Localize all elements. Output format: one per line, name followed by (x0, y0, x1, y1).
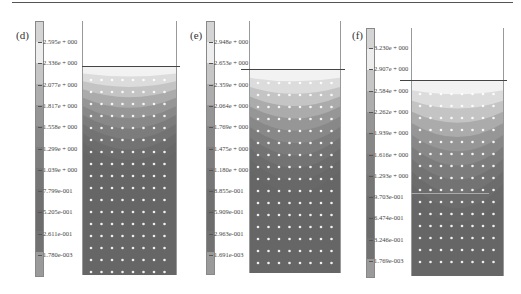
colorbar-tick-mark (38, 42, 42, 43)
colorbar-tick-mark (209, 212, 213, 213)
colorbar-tick-mark (209, 127, 213, 128)
colorbar-tick-mark (369, 91, 373, 92)
colorbar-tick-label: 1.939e + 000 (374, 129, 408, 136)
colorbar-tick-label: 1.616e + 000 (374, 151, 408, 158)
colorbar-tick-mark (209, 149, 213, 150)
colorbar-tick-label: 1.039e + 000 (43, 166, 77, 173)
colorbar-tick-label: 6.474e-001 (374, 214, 403, 221)
colorbar-tick-label: 1.817e + 000 (43, 102, 77, 109)
colorbar-tick-label: 2.907e + 000 (374, 65, 408, 72)
colorbar-tick-mark (369, 261, 373, 262)
contour-plot (82, 21, 177, 275)
colorbar-tick-label: 1.293e + 000 (374, 172, 408, 179)
colorbar-tick-mark (369, 133, 373, 134)
panel-d: (d) 2.595e + 0002.336e + 0002.077e + 000… (0, 0, 180, 294)
colorbar-tick-label: 2.584e + 000 (374, 87, 408, 94)
colorbar-tick-mark (38, 191, 42, 192)
colorbar-tick-label: 8.855e-001 (214, 187, 243, 194)
colorbar-tick-label: 1.780e-003 (43, 251, 72, 258)
colorbar-tick-mark (209, 85, 213, 86)
panel-f: (f) 3.230e + 0002.907e + 0002.584e + 000… (340, 0, 521, 294)
panel-label: (e) (190, 29, 202, 41)
contour-plot (411, 28, 504, 276)
colorbar-tick-label: 5.205e-001 (43, 208, 72, 215)
colorbar-tick-mark (38, 127, 42, 128)
colorbar-tick-label: 2.963e-001 (214, 230, 243, 237)
colorbar-tick-label: 3.230e + 000 (374, 44, 408, 51)
level-line (411, 193, 489, 194)
colorbar-tick-label: 2.948e + 000 (214, 38, 248, 45)
colorbar-tick-mark (369, 218, 373, 219)
colorbar-tick-mark (209, 63, 213, 64)
colorbar-tick-mark (369, 112, 373, 113)
colorbar-tick-label: 2.336e + 000 (43, 59, 77, 66)
colorbar-tick-mark (38, 255, 42, 256)
colorbar-tick-mark (209, 106, 213, 107)
colorbar-tick-label: 1.475e + 000 (214, 145, 248, 152)
colorbar-tick-mark (38, 212, 42, 213)
colorbar-tick-label: 3.246e-001 (374, 236, 403, 243)
colorbar-tick-label: 1.769e-003 (374, 257, 403, 264)
colorbar-tick-label: 1.299e + 000 (43, 145, 77, 152)
colorbar-tick-label: 1.691e-003 (214, 251, 243, 258)
colorbar-tick-label: 1.558e + 000 (43, 123, 77, 130)
colorbar-tick-mark (369, 155, 373, 156)
panel-label: (f) (352, 29, 363, 41)
colorbar-tick-mark (38, 149, 42, 150)
colorbar-tick-label: 5.909e-001 (214, 208, 243, 215)
colorbar-tick-mark (38, 85, 42, 86)
surface-line (82, 66, 180, 67)
colorbar-tick-label: 2.077e + 000 (43, 81, 77, 88)
surface-line (241, 69, 345, 70)
colorbar-tick-mark (38, 234, 42, 235)
colorbar-tick-label: 2.595e + 000 (43, 38, 77, 45)
colorbar-tick-label: 1.180e + 000 (214, 166, 248, 173)
colorbar-tick-label: 9.703e-001 (374, 193, 403, 200)
colorbar-tick-mark (369, 69, 373, 70)
colorbar-tick-mark (209, 42, 213, 43)
colorbar-tick-mark (38, 63, 42, 64)
colorbar-tick-label: 2.611e-001 (43, 230, 72, 237)
colorbar-tick-label: 2.262e + 000 (374, 108, 408, 115)
colorbar-tick-mark (369, 240, 373, 241)
colorbar-tick-label: 1.769e + 000 (214, 123, 248, 130)
colorbar-tick-mark (209, 255, 213, 256)
colorbar-tick-label: 2.359e + 000 (214, 81, 248, 88)
colorbar-tick-mark (209, 234, 213, 235)
panel-e: (e) 2.948e + 0002.653e + 0002.359e + 000… (175, 0, 355, 294)
colorbar-tick-mark (209, 191, 213, 192)
colorbar-tick-mark (38, 106, 42, 107)
contour-plot (249, 21, 341, 273)
panel-label: (d) (16, 29, 29, 41)
colorbar-tick-label: 2.653e + 000 (214, 59, 248, 66)
colorbar-tick-mark (369, 48, 373, 49)
colorbar-tick-label: 7.799e-001 (43, 187, 72, 194)
surface-line (400, 80, 507, 81)
colorbar-tick-label: 2.064e + 000 (214, 102, 248, 109)
colorbar-tick-mark (209, 170, 213, 171)
colorbar-tick-mark (369, 176, 373, 177)
colorbar-tick-mark (38, 170, 42, 171)
colorbar-tick-mark (369, 197, 373, 198)
